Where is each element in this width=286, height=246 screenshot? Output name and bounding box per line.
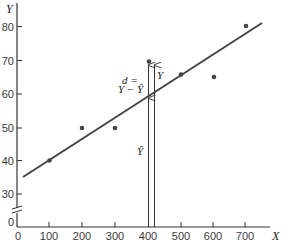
y-axis-title: Y [6, 2, 14, 16]
y-tick-0: 0 [8, 216, 14, 228]
x-axis-title: X [271, 229, 280, 243]
y-ticks [17, 27, 22, 195]
y-tick-30: 30 [2, 188, 14, 200]
axis-break-icon [12, 206, 22, 213]
x-ticks [49, 222, 245, 227]
x-tick-500: 500 [172, 230, 190, 242]
x-tick-600: 600 [204, 230, 222, 242]
y-tick-50: 50 [2, 122, 14, 134]
y-tick-40: 40 [2, 155, 14, 167]
data-point [179, 72, 184, 77]
data-point [212, 75, 217, 80]
data-point [244, 24, 249, 29]
data-point [80, 126, 85, 131]
x-tick-labels: 0 100 200 300 400 500 600 700 [15, 230, 254, 242]
y-tick-labels: 80 70 60 50 40 30 0 [2, 21, 14, 229]
data-point [147, 59, 152, 64]
x-tick-0: 0 [15, 230, 21, 242]
data-point [47, 158, 52, 163]
d-label-line2: Y − Ŷ [118, 83, 145, 95]
y-tick-60: 60 [2, 88, 14, 100]
chart-canvas: 80 70 60 50 40 30 0 0 100 200 300 400 50… [0, 0, 286, 246]
data-point [113, 126, 118, 131]
y-tick-80: 80 [2, 21, 14, 33]
x-tick-200: 200 [73, 230, 91, 242]
y-tick-70: 70 [2, 55, 14, 67]
yhat-arrow-label: Ŷ [137, 145, 145, 157]
x-tick-700: 700 [236, 230, 254, 242]
x-tick-300: 300 [106, 230, 124, 242]
y-arrow-label: Y [157, 69, 165, 81]
x-tick-400: 400 [139, 230, 157, 242]
x-tick-100: 100 [40, 230, 58, 242]
